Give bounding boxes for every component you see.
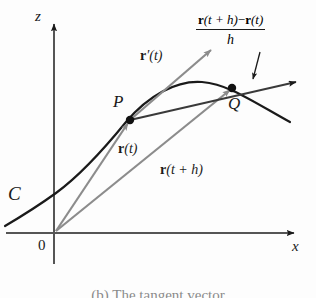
figure-graphics	[0, 0, 316, 298]
difference-quotient-label: r(t + h)−r(t) h	[196, 12, 265, 48]
position-vector-t-label: r(t)	[118, 142, 137, 156]
tangent-vector-figure: z x 0 C P Q r(t) r(t + h) r′(t) r(t + h)…	[0, 0, 316, 298]
vector-arg-close: )	[198, 162, 203, 177]
z-axis-label: z	[35, 9, 41, 24]
figure-caption: (b) The tangent vector	[0, 287, 316, 298]
vector-arg: t + h	[171, 162, 198, 177]
derivative-vector-label: r′(t)	[140, 49, 163, 63]
position-vector-t-plus-h-label: r(t + h)	[160, 163, 203, 177]
difference-quotient-numerator: r(t + h)−r(t)	[196, 12, 265, 30]
position-vector-t-plus-h-arrow	[56, 90, 230, 231]
vector-arg-close: )	[158, 48, 163, 63]
h-leader-arrow	[253, 52, 260, 79]
point-q-label: Q	[228, 95, 240, 112]
point-q-dot	[228, 84, 236, 92]
secant-line-arrow	[130, 82, 296, 120]
curve-label-c: C	[8, 184, 21, 203]
vector-arg-close: )	[133, 141, 138, 156]
point-p-label: P	[113, 93, 123, 110]
point-p-dot	[126, 116, 134, 124]
position-vector-t-arrow	[56, 123, 128, 231]
numerator-arg1: (t + h)	[204, 12, 238, 27]
origin-label: 0	[38, 238, 46, 253]
x-axis-label: x	[292, 239, 299, 254]
numerator-arg2: (t)	[251, 12, 263, 27]
difference-quotient-denominator: h	[196, 30, 265, 48]
